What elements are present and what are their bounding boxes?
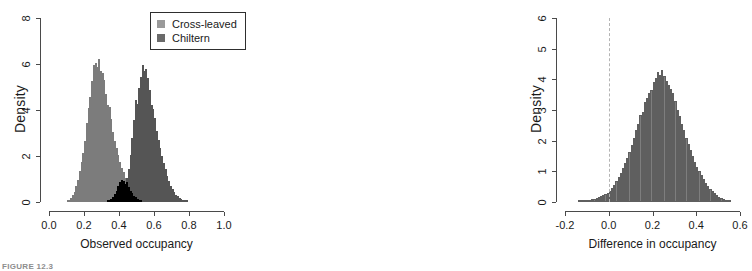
y-axis-tick: [36, 156, 40, 157]
legend-item-chiltern: Chiltern: [157, 31, 238, 45]
x-axis-tick: [565, 212, 566, 216]
y-axis-tick: [552, 171, 556, 172]
legend-label-cross-leaved: Cross-leaved: [172, 19, 237, 30]
x-axis-tick: [189, 212, 190, 216]
x-axis-tick: [49, 212, 50, 216]
y-axis-line: [556, 18, 557, 202]
histogram-bar: [729, 200, 731, 202]
x-axis-line: [49, 211, 224, 212]
x-axis-tick-label: 0.8: [172, 220, 206, 231]
x-axis-tick-label: 0.6: [137, 220, 171, 231]
x-axis-tick-label: 0.4: [102, 220, 136, 231]
legend-label-chiltern: Chiltern: [172, 33, 210, 44]
x-axis-tick: [224, 212, 225, 216]
legend-item-cross-leaved: Cross-leaved: [157, 17, 238, 31]
y-axis-tick: [552, 110, 556, 111]
x-axis-tick-label: 0.6: [723, 220, 752, 231]
chart-panel-observed-occupancy: 024680.00.20.40.60.81.0 Density Observed…: [0, 0, 258, 268]
y-axis-tick: [36, 110, 40, 111]
x-axis-tick-label: 0.0: [32, 220, 66, 231]
x-axis-tick: [154, 212, 155, 216]
x-axis-tick-label: 1.0: [207, 220, 241, 231]
x-axis-tick: [696, 212, 697, 216]
x-axis-tick-label: 0.0: [592, 220, 626, 231]
x-axis-tick-label: 0.2: [636, 220, 670, 231]
y-axis-tick: [36, 202, 40, 203]
y-axis-tick: [36, 64, 40, 65]
x-axis-tick: [84, 212, 85, 216]
x-axis-title-left: Observed occupancy: [49, 238, 224, 250]
y-axis-tick: [552, 141, 556, 142]
x-axis-tick-label: 0.2: [67, 220, 101, 231]
y-axis-title-left: Density: [14, 17, 26, 201]
x-axis-tick: [740, 212, 741, 216]
histogram-bar-overlap: [140, 200, 142, 202]
zero-reference-line: [609, 18, 610, 202]
x-axis-title-right: Difference in occupancy: [565, 238, 740, 250]
legend-swatch-icon-chiltern: [157, 34, 165, 42]
x-axis-tick-label: 0.4: [679, 220, 713, 231]
x-axis-tick: [119, 212, 120, 216]
legend-swatch-icon-cross-leaved: [157, 20, 165, 28]
x-axis-tick: [653, 212, 654, 216]
histogram-bar: [186, 200, 188, 202]
legend: Cross-leaved Chiltern: [150, 12, 246, 50]
y-axis-line: [40, 18, 41, 202]
x-axis-tick-label: -0.2: [548, 220, 582, 231]
y-axis-tick: [36, 18, 40, 19]
histogram-bars-difference-in-occupancy: [565, 18, 740, 202]
y-axis-tick: [552, 202, 556, 203]
y-axis-tick: [552, 79, 556, 80]
plot-area-difference-in-occupancy: [565, 18, 740, 202]
y-axis-tick: [552, 49, 556, 50]
chart-panel-difference-in-occupancy: 0123456-0.20.00.20.40.6 Density Differen…: [258, 0, 516, 268]
figure-caption: FIGURE 12.3: [2, 263, 53, 271]
y-axis-title-right: Density: [530, 17, 542, 201]
y-axis-tick: [552, 18, 556, 19]
x-axis-tick: [609, 212, 610, 216]
